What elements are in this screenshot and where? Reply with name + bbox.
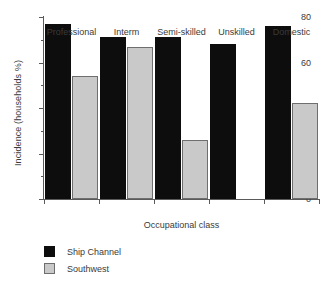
y-axis-tick	[39, 17, 44, 18]
legend-item: Ship Channel	[44, 243, 121, 260]
x-axis-spine	[43, 199, 320, 200]
x-axis-title: Occupational class	[44, 220, 319, 230]
x-axis-tick-label: Domestic	[273, 27, 311, 37]
bar	[155, 37, 181, 199]
bar	[100, 37, 126, 199]
x-axis-tick	[319, 199, 320, 204]
y-axis-minor-tick	[41, 85, 44, 86]
y-axis-minor-tick	[41, 40, 44, 41]
y-axis-tick-label: 80	[301, 12, 311, 22]
bar	[292, 103, 318, 199]
legend-item: Southwest	[44, 260, 121, 277]
legend-swatch-icon	[44, 263, 55, 274]
bar	[45, 24, 71, 199]
y-axis-tick	[39, 108, 44, 109]
x-axis-tick	[264, 199, 265, 204]
bar	[127, 47, 153, 199]
x-axis-tick-label: Interm	[114, 27, 140, 37]
y-axis-tick	[39, 63, 44, 64]
y-axis-title: Incidence (households %)	[13, 23, 23, 203]
x-axis-tick	[209, 199, 210, 204]
bar-chart-figure: Incidence (households %) 020406080Profes…	[0, 0, 328, 293]
x-axis-tick	[44, 199, 45, 204]
y-axis-tick-label: 60	[301, 58, 311, 68]
legend-swatch-icon	[44, 246, 55, 257]
y-axis-minor-tick	[41, 131, 44, 132]
x-axis-tick-label: Unskilled	[218, 27, 255, 37]
x-axis-tick	[154, 199, 155, 204]
legend-label: Southwest	[67, 264, 109, 274]
bar	[72, 76, 98, 199]
x-axis-tick-label: Semi-skilled	[157, 27, 206, 37]
y-axis-minor-tick	[41, 176, 44, 177]
bar	[210, 44, 236, 199]
x-axis-tick	[99, 199, 100, 204]
y-axis-tick	[39, 154, 44, 155]
legend-label: Ship Channel	[67, 247, 121, 257]
chart-legend: Ship ChannelSouthwest	[44, 243, 121, 277]
x-axis-tick-label: Professional	[47, 27, 97, 37]
plot-area: 020406080ProfessionalIntermSemi-skilledU…	[44, 17, 319, 199]
bar	[182, 140, 208, 199]
bar	[265, 26, 291, 199]
